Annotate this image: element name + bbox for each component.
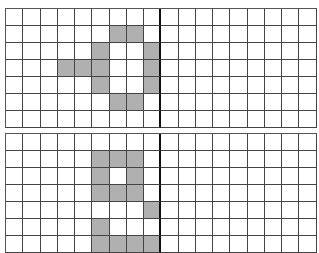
grid-cell <box>75 111 92 128</box>
grid-cell <box>299 94 316 111</box>
grid-cell <box>248 43 265 60</box>
grid-cell <box>161 185 178 202</box>
grid-cell <box>92 202 109 219</box>
grid-cell-filled <box>127 168 144 185</box>
grid-cell <box>144 219 161 236</box>
grid-cell <box>230 202 247 219</box>
grid-cell <box>144 26 161 43</box>
grid-cell-filled <box>127 26 144 43</box>
grid-cell <box>23 202 40 219</box>
grid-cell <box>299 168 316 185</box>
grid-cell <box>265 111 282 128</box>
grid-cell-filled <box>127 151 144 168</box>
grid-cell-filled <box>110 94 127 111</box>
grid-cell <box>282 236 299 253</box>
grid-cell <box>196 77 213 94</box>
grid-cell <box>58 9 75 26</box>
grid-cell-filled <box>127 185 144 202</box>
grid-cell <box>58 111 75 128</box>
grid-cell-filled <box>110 236 127 253</box>
grid-cell <box>299 26 316 43</box>
grid-cell <box>282 43 299 60</box>
grid-cell <box>161 202 178 219</box>
grid-cell <box>196 219 213 236</box>
grid-cell-filled <box>92 151 109 168</box>
grid-cell <box>265 94 282 111</box>
grid-cell <box>196 111 213 128</box>
grid-cell <box>110 168 127 185</box>
grid-cell <box>213 185 230 202</box>
grid-cell <box>58 236 75 253</box>
grid-cell <box>6 9 23 26</box>
grid-cell <box>299 134 316 151</box>
grid-cell <box>75 168 92 185</box>
grid-cell <box>75 151 92 168</box>
grid-cell <box>179 111 196 128</box>
grid-cell <box>213 236 230 253</box>
grid-cell <box>41 151 58 168</box>
grid-cell <box>196 134 213 151</box>
grid-cell <box>75 9 92 26</box>
grid-cell <box>282 151 299 168</box>
grid-cell <box>6 185 23 202</box>
grid-cell <box>92 134 109 151</box>
grid-cell <box>230 94 247 111</box>
grid-cell <box>6 77 23 94</box>
grid-cell <box>248 185 265 202</box>
grid-cell <box>75 185 92 202</box>
grid-cell <box>6 26 23 43</box>
grid-cell <box>213 9 230 26</box>
grid-cell <box>299 77 316 94</box>
grid-cell <box>265 9 282 26</box>
grid-cell <box>161 219 178 236</box>
grid-cell <box>230 219 247 236</box>
grid-cell <box>248 111 265 128</box>
grid-cell <box>92 94 109 111</box>
grid-cell <box>6 60 23 77</box>
grid-cell <box>41 111 58 128</box>
grid-cell <box>299 185 316 202</box>
grid-cell <box>75 219 92 236</box>
grid-cell <box>282 94 299 111</box>
grid-cell <box>265 60 282 77</box>
grid-cell <box>75 26 92 43</box>
grid-cell <box>179 134 196 151</box>
grid-cell <box>127 43 144 60</box>
grid-cell <box>265 185 282 202</box>
bottom-grid <box>5 133 317 253</box>
grid-cell <box>213 168 230 185</box>
grid-cell <box>282 168 299 185</box>
grid-cell <box>110 9 127 26</box>
grid-cell <box>282 219 299 236</box>
grid-cell-filled <box>127 236 144 253</box>
grid-cell <box>144 111 161 128</box>
grid-cell <box>179 236 196 253</box>
grid-cell <box>161 26 178 43</box>
grid-cell <box>6 236 23 253</box>
grid-cell <box>179 77 196 94</box>
grid-cell <box>299 219 316 236</box>
grid-cell <box>196 168 213 185</box>
grid-cell-filled <box>110 151 127 168</box>
grid-cell <box>248 134 265 151</box>
grid-cell-filled <box>144 43 161 60</box>
grid-cell <box>23 168 40 185</box>
grid-cell <box>179 94 196 111</box>
grid-cell <box>230 77 247 94</box>
grid-cell <box>127 60 144 77</box>
grid-cell <box>58 151 75 168</box>
grid-cell <box>230 236 247 253</box>
grid-cell <box>6 168 23 185</box>
grid-cell <box>58 219 75 236</box>
grid-cell <box>6 111 23 128</box>
grid-cell <box>6 43 23 60</box>
grid-cell <box>161 168 178 185</box>
grid-cell <box>282 60 299 77</box>
grid-cell <box>248 219 265 236</box>
grid-cell <box>144 151 161 168</box>
grid-cell <box>41 185 58 202</box>
grid-cell <box>75 94 92 111</box>
grid-cell <box>110 111 127 128</box>
grid-cell <box>179 168 196 185</box>
grid-cell <box>213 111 230 128</box>
